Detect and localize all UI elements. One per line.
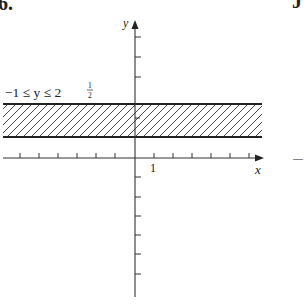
next-problem-number-partial: J <box>292 0 302 12</box>
problem-number: 6. <box>0 0 13 14</box>
x-axis <box>3 153 264 162</box>
y-axis-ticks <box>135 37 141 274</box>
y-axis-arrow-icon <box>132 20 139 29</box>
x-axis-arrow-icon <box>255 155 264 162</box>
inequality-label: −1 ≤ y ≤ 2 <box>5 85 61 100</box>
x-axis-label: x <box>254 162 261 177</box>
shaded-region <box>3 104 262 137</box>
y-axis-label: y <box>122 16 129 30</box>
x-tick-label-1: 1 <box>150 161 156 175</box>
right-edge-mark: — <box>292 153 304 164</box>
region-graph: 6. J y x 1 −1 ≤ y ≤ 2 1 2 — <box>0 0 304 304</box>
fraction-numerator: 1 <box>88 81 92 90</box>
figure-canvas: 6. J y x 1 −1 ≤ y ≤ 2 1 2 — <box>0 0 304 304</box>
fraction-denominator: 2 <box>88 91 92 100</box>
